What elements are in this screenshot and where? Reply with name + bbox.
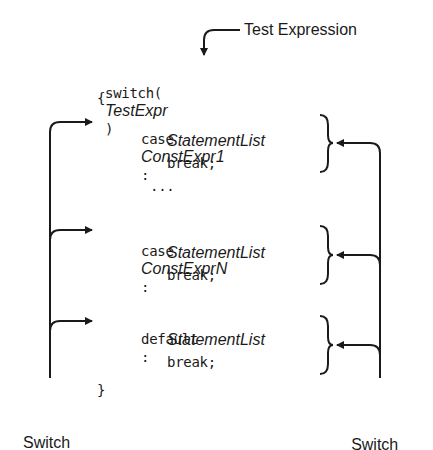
switch-label-arrow-2: [50, 230, 92, 240]
statement-list-2: StatementList: [167, 244, 265, 262]
section-brace-3: [320, 316, 333, 374]
switch-section-arrow-2: [337, 255, 380, 265]
switch-section-arrow-3: [337, 345, 380, 355]
colon: :: [141, 279, 149, 295]
section-brace-1: [320, 115, 333, 172]
break-3: break;: [167, 354, 216, 370]
statement-list-3: StatementList: [167, 331, 265, 349]
test-expression-arrow: [204, 30, 240, 55]
ellipsis: ...: [150, 178, 174, 194]
statement-list-1: StatementList: [167, 132, 265, 150]
close-brace: }: [97, 382, 105, 398]
break-2: break;: [167, 267, 216, 283]
test-expression-label: Test Expression: [244, 21, 357, 39]
switch-labels-caption: Switch Labels: [23, 388, 70, 450]
switch-sections-caption: Switch Sections: [344, 390, 405, 450]
switch-labels-line: [50, 122, 92, 378]
section-brace-2: [320, 226, 333, 284]
open-brace: {: [97, 90, 105, 106]
colon: :: [141, 167, 149, 183]
break-1: break;: [167, 155, 216, 171]
switch-sections-line: [337, 143, 380, 378]
switch-label-arrow-3: [50, 321, 92, 331]
colon: :: [141, 349, 149, 365]
switch-keyword: switch(: [105, 85, 162, 101]
close-paren: ): [105, 121, 113, 137]
